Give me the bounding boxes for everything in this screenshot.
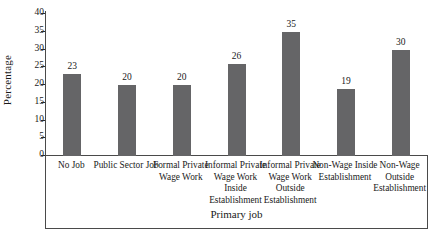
bar-value-label: 19 — [326, 76, 366, 86]
y-axis-tick-mark — [41, 13, 45, 14]
x-axis-tick-label: Non-Wage Outside Establishment — [367, 160, 433, 195]
bar-value-label: 23 — [52, 61, 92, 71]
bar-value-label: 20 — [162, 72, 202, 82]
bar — [118, 85, 136, 156]
y-axis-tick-mark — [41, 120, 45, 121]
bar — [173, 85, 191, 156]
bar-value-label: 20 — [107, 72, 147, 82]
x-axis-title: Primary job — [45, 208, 428, 220]
y-axis-tick-mark — [41, 137, 45, 138]
y-axis-tick-mark — [41, 102, 45, 103]
bar-value-label: 26 — [217, 51, 257, 61]
bar-chart: Percentage 4035302520151050 232020263519… — [0, 0, 441, 239]
bar-value-label: 35 — [271, 19, 311, 29]
y-axis-title-text: Percentage — [1, 55, 13, 105]
y-axis-title: Percentage — [0, 0, 14, 160]
bar — [63, 74, 81, 156]
y-axis-tick-mark — [41, 66, 45, 67]
plot-area: 23202026351930 — [46, 11, 428, 156]
bar-value-label: 30 — [381, 37, 421, 47]
y-axis-tick-mark — [41, 155, 45, 156]
bar — [282, 32, 300, 156]
y-axis-tick-mark — [41, 49, 45, 50]
y-axis-tick-mark — [41, 31, 45, 32]
bar — [337, 89, 355, 156]
bar — [228, 64, 246, 156]
y-axis-tick-mark — [41, 84, 45, 85]
bar — [392, 50, 410, 157]
